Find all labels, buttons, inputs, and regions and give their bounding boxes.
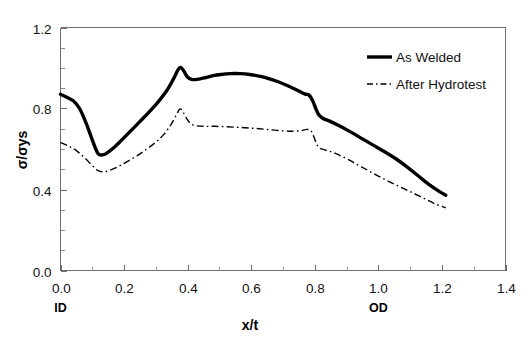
x-tick-label: 0.2 [115,281,134,296]
x-tick-label: 1.4 [497,281,516,296]
y-axis-title: σ/σys [14,130,30,169]
axis-annotation-id: ID [54,301,67,315]
y-tick-label: 0.8 [33,102,52,117]
x-tick-label: 0.6 [242,281,261,296]
x-axis-title: x/t [242,317,259,333]
x-tick-label: 0.4 [179,281,198,296]
legend-label-as-welded: As Welded [396,50,461,65]
line-chart: 0.00.40.81.2 0.00.20.40.60.81.01.21.4 ID… [0,0,528,349]
axis-annotation-od: OD [369,301,388,315]
x-tick-label: 0.8 [306,281,325,296]
y-tick-label: 1.2 [33,22,52,37]
y-tick-label: 0.4 [33,184,52,199]
x-tick-label: 1.2 [433,281,452,296]
x-tick-label: 1.0 [369,281,388,296]
x-tick-label: 0.0 [52,281,71,296]
chart-container: 0.00.40.81.2 0.00.20.40.60.81.01.21.4 ID… [0,0,528,349]
legend-label-after-hydrotest: After Hydrotest [396,77,486,92]
y-tick-label: 0.0 [33,265,52,280]
